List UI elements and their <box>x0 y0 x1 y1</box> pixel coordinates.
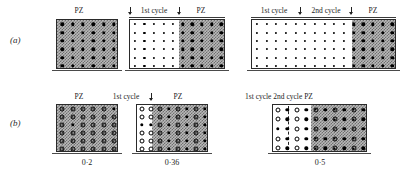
specimen-box-b3 <box>272 104 367 152</box>
lattice-marker <box>193 147 198 152</box>
lattice-marker <box>313 127 318 132</box>
lattice-marker <box>148 107 153 112</box>
panel-caption-b2: 0·36 <box>132 158 212 167</box>
lattice-marker <box>175 139 180 144</box>
lattice-marker <box>101 131 106 136</box>
lattice-marker <box>91 123 96 128</box>
lattice-marker <box>139 147 144 152</box>
lattice-marker <box>275 117 280 122</box>
figure-root: (a) PZ 1st cycle PZ 1st cycle 2nd cycle … <box>0 0 420 175</box>
row-label-b: (b) <box>10 118 21 128</box>
lattice-marker <box>351 136 356 141</box>
lattice-marker <box>70 147 75 152</box>
lattice-marker <box>80 139 85 144</box>
lattice-marker <box>351 127 356 132</box>
header-label-pz: PZ <box>358 6 388 15</box>
lattice-marker <box>60 131 65 136</box>
plastic-zone-fill <box>352 20 396 68</box>
lattice-marker <box>157 139 162 144</box>
lattice-marker <box>313 107 318 112</box>
crack-baseline <box>247 70 400 72</box>
lattice-marker <box>157 107 162 112</box>
lattice-marker <box>70 107 75 112</box>
lattice-marker <box>332 127 337 132</box>
lattice-marker <box>175 115 180 120</box>
lattice-marker <box>175 107 180 112</box>
lattice-marker <box>91 131 96 136</box>
lattice-marker <box>175 123 180 128</box>
header-label-1st-cycle: 1st cycle <box>252 6 296 15</box>
lattice-marker <box>148 115 153 120</box>
lattice-marker <box>101 147 106 152</box>
header-label-1st-cycle: 1st cycle <box>132 6 176 15</box>
lattice-marker <box>193 123 198 128</box>
crack-baseline <box>132 153 212 155</box>
header-rule <box>251 17 396 18</box>
lattice-marker <box>139 131 144 136</box>
lattice-marker <box>80 123 85 128</box>
crack-baseline <box>125 70 229 72</box>
lattice-marker <box>157 147 162 152</box>
lattice-marker <box>91 107 96 112</box>
tick-arrow-mid-right <box>351 7 352 14</box>
lattice-marker <box>70 131 75 136</box>
row-label-a: (a) <box>10 35 21 45</box>
header-label-pz: PZ <box>64 92 94 101</box>
tick-arrow-left <box>130 7 131 14</box>
elastic-region-fill <box>252 20 352 68</box>
tick-arrow-right <box>179 7 180 14</box>
plastic-zone-fill <box>179 20 225 68</box>
lattice-marker <box>294 107 299 112</box>
lattice-marker <box>148 139 153 144</box>
specimen-box-a3 <box>251 19 396 69</box>
lattice-marker <box>111 115 116 120</box>
lattice-marker <box>60 115 65 120</box>
lattice-marker <box>157 115 162 120</box>
lattice-marker <box>351 146 356 151</box>
lattice-marker <box>193 115 198 120</box>
header-label-b3: 1st cycle 2nd cycle PZ <box>245 92 375 101</box>
lattice-marker <box>111 139 116 144</box>
lattice-marker <box>294 127 299 132</box>
header-label-pz: PZ <box>186 6 216 15</box>
lattice-marker <box>193 107 198 112</box>
lattice-marker <box>101 139 106 144</box>
header-rule <box>129 17 225 18</box>
lattice-marker <box>101 107 106 112</box>
lattice-marker <box>60 147 65 152</box>
lattice-marker <box>80 131 85 136</box>
lattice-marker <box>91 115 96 120</box>
lattice-marker <box>80 115 85 120</box>
lattice-marker <box>332 107 337 112</box>
lattice-marker <box>60 123 65 128</box>
lattice-marker <box>139 139 144 144</box>
lattice-marker <box>275 107 280 112</box>
lattice-marker <box>80 147 85 152</box>
specimen-box-b1 <box>56 104 118 152</box>
lattice-marker <box>275 146 280 151</box>
lattice-marker <box>175 131 180 136</box>
lattice-marker <box>294 117 299 122</box>
lattice-marker <box>111 131 116 136</box>
lattice-marker <box>111 147 116 152</box>
tick-arrow-boundary <box>151 93 152 100</box>
lattice-marker <box>175 147 180 152</box>
lattice-marker <box>313 136 318 141</box>
lattice-marker <box>91 139 96 144</box>
lattice-marker <box>313 146 318 151</box>
lattice-marker <box>139 115 144 120</box>
specimen-box-a2 <box>129 19 225 69</box>
lattice-marker <box>60 139 65 144</box>
lattice-marker <box>70 115 75 120</box>
elastic-region-fill <box>130 20 179 68</box>
lattice-marker <box>157 131 162 136</box>
header-label-pz: PZ <box>163 92 193 101</box>
elastic-region-fill <box>137 105 152 151</box>
lattice-marker <box>80 107 85 112</box>
specimen-box-a1 <box>56 19 118 69</box>
lattice-marker <box>351 107 356 112</box>
lattice-marker <box>60 107 65 112</box>
plastic-zone-fill <box>57 20 118 68</box>
tick-arrow-mid-left <box>300 7 301 14</box>
lattice-marker <box>332 146 337 151</box>
